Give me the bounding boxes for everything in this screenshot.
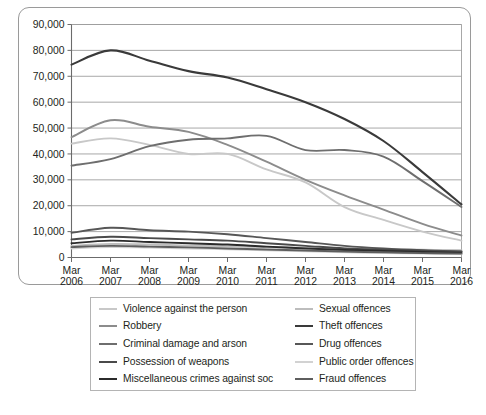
x-axis-tick-label: 2009 (177, 276, 200, 287)
x-axis-tick-label: Mar (180, 265, 198, 276)
y-axis-tick-label: 50,000 (33, 123, 65, 134)
legend-color-swatch (99, 308, 117, 310)
legend-item-label: Fraud offences (319, 373, 386, 385)
x-axis-tick-label: 2014 (372, 276, 395, 287)
legend-item[interactable]: Miscellaneous crimes against soc (99, 370, 295, 388)
x-axis-tick-label: 2006 (60, 276, 83, 287)
y-axis-tick-label: 10,000 (33, 226, 65, 237)
legend-color-swatch (99, 378, 117, 380)
series-line (72, 135, 462, 207)
y-axis-tick-labels: 010,00020,00030,00040,00050,00060,00070,… (33, 19, 65, 263)
legend-item[interactable]: Violence against the person (99, 300, 295, 318)
legend-item-label: Violence against the person (123, 303, 247, 315)
legend-color-swatch (295, 343, 313, 345)
series-line (72, 50, 462, 204)
legend-item-label: Theft offences (319, 320, 383, 332)
x-axis-tick-label: 2010 (216, 276, 239, 287)
legend: Violence against the personSexual offenc… (90, 297, 416, 391)
y-axis-tick-label: 0 (59, 252, 65, 263)
legend-item-label: Sexual offences (319, 303, 391, 315)
legend-color-swatch (295, 378, 313, 380)
x-axis-tick-label: Mar (375, 265, 393, 276)
x-axis-tick-label: 2013 (333, 276, 356, 287)
legend-color-swatch (99, 361, 117, 363)
legend-color-swatch (99, 343, 117, 345)
legend-color-swatch (295, 308, 313, 310)
legend-color-swatch (99, 325, 117, 327)
x-axis-tick-label: Mar (297, 265, 315, 276)
x-axis-tick-label: Mar (141, 265, 159, 276)
legend-item-label: Robbery (123, 320, 161, 332)
x-axis-tick-labels: Mar2006Mar2007Mar2008Mar2009Mar2010Mar20… (60, 265, 473, 288)
x-axis-tick-label: 2007 (99, 276, 122, 287)
legend-item[interactable]: Possession of weapons (99, 353, 295, 371)
y-axis-tick-label: 60,000 (33, 97, 65, 108)
line-chart-figure: 010,00020,00030,00040,00050,00060,00070,… (0, 0, 486, 415)
x-axis-tick-label: Mar (414, 265, 432, 276)
legend-item-label: Public order offences (319, 356, 413, 368)
legend-item-label: Miscellaneous crimes against soc (123, 373, 273, 385)
x-axis-tick-label: Mar (453, 265, 471, 276)
y-axis-tick-label: 40,000 (33, 149, 65, 160)
legend-item[interactable]: Sexual offences (295, 300, 425, 318)
x-axis-tick-label: 2016 (450, 276, 473, 287)
legend-item-label: Criminal damage and arson (123, 338, 247, 350)
x-axis-tick-label: 2008 (138, 276, 161, 287)
series-line (72, 120, 462, 236)
x-axis-tick-label: 2011 (255, 276, 278, 287)
legend-item[interactable]: Drug offences (295, 335, 425, 353)
y-axis-tick-label: 30,000 (33, 174, 65, 185)
legend-item-label: Possession of weapons (123, 356, 229, 368)
legend-item[interactable]: Robbery (99, 318, 295, 336)
legend-color-swatch (295, 361, 313, 363)
x-axis-tick-label: 2012 (294, 276, 317, 287)
legend-item[interactable]: Public order offences (295, 353, 425, 371)
y-axis-tick-label: 90,000 (33, 19, 65, 30)
x-axis-tick-label: Mar (258, 265, 276, 276)
x-axis-ticks (72, 258, 462, 263)
legend-item-label: Drug offences (319, 338, 382, 350)
y-axis-tick-label: 20,000 (33, 200, 65, 211)
y-axis-tick-label: 80,000 (33, 45, 65, 56)
legend-item[interactable]: Criminal damage and arson (99, 335, 295, 353)
x-axis-tick-label: Mar (102, 265, 120, 276)
legend-item[interactable]: Theft offences (295, 318, 425, 336)
y-axis-tick-label: 70,000 (33, 71, 65, 82)
x-axis-tick-label: Mar (219, 265, 237, 276)
x-axis-tick-label: Mar (63, 265, 81, 276)
x-axis-tick-label: 2015 (411, 276, 434, 287)
legend-item[interactable]: Fraud offences (295, 370, 425, 388)
legend-color-swatch (295, 325, 313, 327)
x-axis-tick-label: Mar (336, 265, 354, 276)
data-series-group (72, 50, 462, 254)
